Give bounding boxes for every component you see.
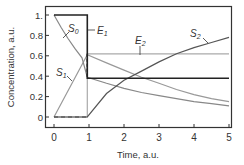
series-e2	[54, 54, 229, 117]
series-layer	[54, 15, 229, 117]
y-tick-label: 0.8	[30, 30, 43, 41]
label-s0: S0	[68, 23, 79, 35]
x-tick-label: 4	[191, 132, 197, 143]
x-tick-label: 2	[121, 132, 127, 143]
label-s1: S1	[56, 67, 67, 79]
y-tick-label: 0.4	[30, 71, 43, 82]
series-s1	[54, 55, 229, 117]
label-s2: S2	[190, 28, 201, 40]
y-tick-label: 0.2	[30, 91, 43, 102]
y-tick-label: 0.6	[30, 50, 43, 61]
chart: 1. 0.8 0.6 0.4 0.2 0 0 1 2 3 4 5 Time, a…	[0, 0, 244, 165]
y-tick-label: 1.	[35, 10, 43, 21]
y-axis-title: Concentration, a.u.	[5, 27, 16, 107]
x-tick-label: 0	[51, 132, 57, 143]
y-tick-label: 0	[38, 112, 43, 123]
label-e2: E2	[135, 35, 146, 47]
x-tick-label: 3	[156, 132, 162, 143]
x-tick-label: 1	[86, 132, 92, 143]
series-s0	[54, 15, 229, 106]
x-axis-title: Time, a.u.	[117, 149, 159, 160]
x-tick-label: 5	[226, 132, 232, 143]
label-e1: E1	[97, 25, 108, 37]
annotations: S0 E1 E2 S1 S2	[56, 23, 208, 81]
